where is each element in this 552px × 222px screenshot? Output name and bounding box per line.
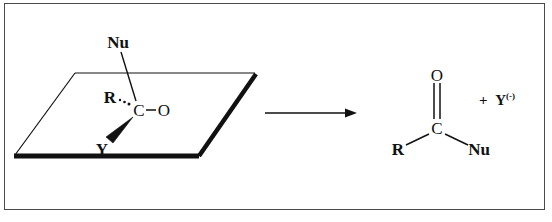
reactant-oxygen-label: O [158,102,170,119]
byproduct-symbol: Y [495,92,506,108]
product-nucleophile-label: Nu [468,141,490,158]
bond-carbon-to-y-wedge [106,117,133,143]
reactant-carbon-label: C [133,102,144,119]
product-r-group-label: R [392,141,404,158]
chemistry-reaction-figure: Nu R C O Y O C R Nu + Y(-) [0,0,552,222]
bond-carbonyl-double [434,83,440,119]
plus-sign: + [479,92,488,108]
reactant-r-group-label: R [104,89,116,106]
plane-edge-right [199,74,256,156]
byproduct-charge: (-) [506,91,515,101]
bond-r-to-carbon-hashed [119,99,131,106]
byproduct-anion-label: + Y(-) [479,91,515,109]
product-carbon-label: C [431,120,442,137]
bond-product-carbon-to-r [406,134,429,145]
reaction-scheme-canvas [0,0,552,222]
reactant-nucleophile-label: Nu [107,34,129,51]
reactant-leaving-group-label: Y [96,141,108,158]
bond-product-carbon-to-nu [445,134,468,145]
plane-edge-left [15,73,75,155]
reaction-arrow [265,109,357,118]
bond-nu-to-carbon [121,52,136,101]
product-oxygen-label: O [431,67,443,84]
